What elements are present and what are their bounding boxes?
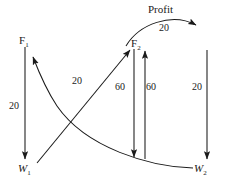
edge-value-f2-to-w2-far-right: 20 (192, 82, 202, 92)
node-label-f1: F1 (19, 35, 29, 49)
edge-value-f2-to-w2-left: 60 (115, 82, 125, 92)
node-label-w2: W2 (194, 163, 207, 177)
edge-w2-to-f1-curve (33, 57, 193, 168)
diagram-graphics (0, 0, 227, 184)
edge-value-w2-to-f2-right: 60 (146, 82, 156, 92)
edge-w1-to-f2 (37, 50, 130, 163)
node-label-f2: F2 (131, 38, 141, 52)
edge-value-f1-to-w1: 20 (9, 101, 19, 111)
diagram-canvas: F1 F2 W1 W2 20 20 60 60 20 20 Profit (0, 0, 227, 184)
node-label-w1: W1 (18, 163, 31, 177)
profit-annotation-label: Profit (148, 4, 173, 15)
edge-value-profit-arc: 20 (159, 23, 169, 33)
edge-value-w1-to-f2: 20 (72, 76, 82, 86)
